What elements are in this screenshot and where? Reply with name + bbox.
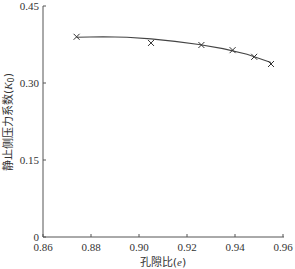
x-tick-label: 0.88 xyxy=(81,241,101,253)
y-ticks: 00.150.300.45 xyxy=(20,0,46,243)
y-tick-label: 0.45 xyxy=(20,0,40,12)
x-tick-label: 0.86 xyxy=(33,241,53,253)
x-tick-label: 0.90 xyxy=(129,241,149,253)
y-tick-label: 0.30 xyxy=(20,77,40,89)
fit-line xyxy=(77,37,271,63)
fitted-curve xyxy=(77,37,271,63)
x-marker xyxy=(268,61,274,67)
x-marker xyxy=(148,40,154,46)
x-tick-label: 0.94 xyxy=(225,241,245,253)
y-tick-label: 0.15 xyxy=(20,154,40,166)
y-axis-title: 静止侧压力系数(K0) xyxy=(1,73,16,171)
x-tick-label: 0.92 xyxy=(177,241,196,253)
data-points xyxy=(74,34,274,67)
x-marker xyxy=(251,54,257,60)
x-tick-label: 0.96 xyxy=(273,241,293,253)
x-axis-title: 孔隙比(e) xyxy=(140,255,186,269)
chart: 00.150.300.45 0.860.880.900.920.940.96 孔… xyxy=(0,0,295,269)
